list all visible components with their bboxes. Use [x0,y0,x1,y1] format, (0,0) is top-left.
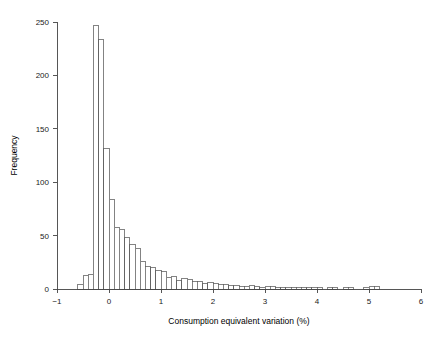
histogram-figure: 050100150200250−10123456Consumption equi… [0,0,430,341]
histogram-bar [114,227,119,289]
histogram-bar [119,229,124,289]
histogram-bar [78,285,83,289]
histogram-bar [223,285,228,289]
histogram-bar [83,275,88,289]
y-axis-tick-label: 200 [36,71,50,80]
histogram-bar [218,285,223,289]
x-axis-tick-label: 1 [159,297,164,306]
y-axis-tick-label: 0 [45,285,50,294]
histogram-bar [156,271,161,289]
x-axis-tick-label: 4 [315,297,320,306]
x-axis-title: Consumption equivalent variation (%) [168,316,309,326]
y-axis-tick-label: 250 [36,18,50,27]
histogram-bar [135,248,140,289]
y-axis-title: Frequency [9,135,19,176]
histogram-bar [166,277,171,289]
histogram-bar [192,282,197,289]
histogram-bar [130,244,135,289]
chart-labels: 050100150200250−10123456Consumption equi… [9,18,424,326]
histogram-bar [177,280,182,289]
histogram-bar [187,279,192,289]
x-axis-tick-label: −1 [52,297,62,306]
histogram-bar [140,261,145,289]
histogram-bar [171,276,176,289]
histogram-bar [208,283,213,289]
histogram-bar [161,272,166,289]
histogram-bar [213,284,218,289]
histogram-bar [229,286,234,289]
histogram-bar [151,268,156,289]
x-axis-tick-label: 2 [211,297,216,306]
histogram-bars [78,25,380,289]
histogram-bar [99,39,104,289]
histogram-bar [88,274,93,289]
x-axis-tick-label: 0 [107,297,112,306]
x-axis-tick-label: 6 [419,297,424,306]
histogram-bar [182,278,187,289]
x-axis-tick-label: 3 [263,297,268,306]
histogram-bar [234,286,239,289]
histogram-chart: 050100150200250−10123456Consumption equi… [0,0,430,341]
histogram-bar [125,238,130,289]
y-axis-tick-label: 50 [40,232,49,241]
x-axis-tick-label: 5 [367,297,372,306]
y-axis-tick-label: 100 [36,178,50,187]
histogram-bar [203,284,208,289]
histogram-bar [197,282,202,289]
y-axis-tick-label: 150 [36,125,50,134]
histogram-bar [109,199,114,289]
histogram-bar [145,267,150,289]
histogram-bar [249,286,254,289]
histogram-bar [104,148,109,289]
histogram-bar [93,25,98,289]
